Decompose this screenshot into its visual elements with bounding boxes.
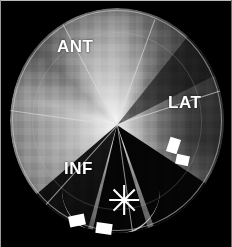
- frame-border-left: [0, 0, 1, 247]
- screenshot-canvas: ANT LAT INF ✳: [0, 0, 232, 247]
- asterisk-defect-marker: ✳: [107, 181, 141, 222]
- frame-border-top: [0, 0, 232, 1]
- region-label-anterior: ANT: [57, 38, 93, 55]
- region-label-lateral: LAT: [168, 94, 201, 111]
- region-label-inferior: INF: [64, 160, 93, 177]
- frame-border-right: [231, 0, 232, 247]
